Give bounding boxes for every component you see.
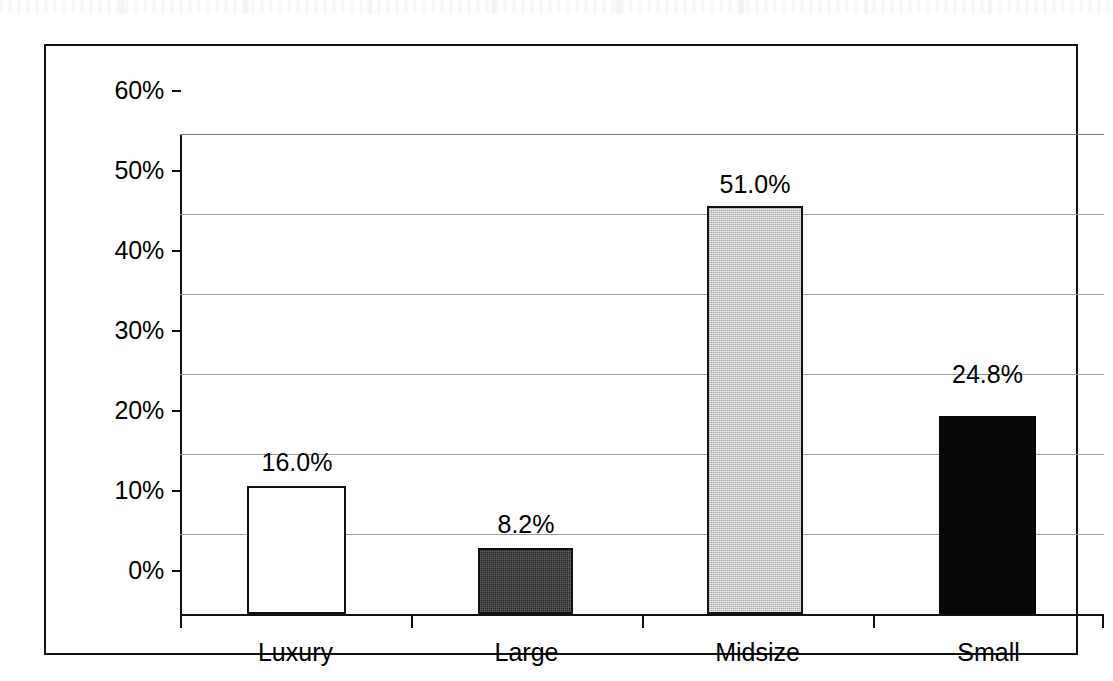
gridline-60 xyxy=(180,134,1104,135)
x-axis-label-midsize: Midsize xyxy=(642,638,873,666)
data-label-small: 24.8% xyxy=(923,362,1052,387)
y-tick-mark-60 xyxy=(172,90,181,92)
y-tick-label-60: 60% xyxy=(86,78,164,103)
bar-luxury[interactable] xyxy=(247,486,346,614)
x-tick-mark-4 xyxy=(1102,615,1104,628)
data-label-midsize: 51.0% xyxy=(691,172,819,197)
y-tick-label-40: 40% xyxy=(86,238,164,263)
plot-area: 16.0% 8.2% 51.0% 24.8% xyxy=(180,134,1104,614)
gridline-40 xyxy=(180,294,1104,295)
x-axis-label-large: Large xyxy=(411,638,642,666)
y-tick-label-0: 0% xyxy=(86,558,164,583)
y-axis-tick-labels: 60% 50% 40% 30% 20% 10% 0% xyxy=(86,46,164,657)
scan-artifact xyxy=(0,0,1113,14)
chart-frame: 60% 50% 40% 30% 20% 10% 0% 16.0% 8.2% 51… xyxy=(44,44,1078,655)
bar-midsize[interactable] xyxy=(707,206,803,614)
y-tick-label-30: 30% xyxy=(86,318,164,343)
gridline-50 xyxy=(180,214,1104,215)
data-label-large: 8.2% xyxy=(463,512,589,537)
x-tick-mark-2 xyxy=(642,615,644,628)
x-axis-label-luxury: Luxury xyxy=(180,638,411,666)
x-axis-label-small: Small xyxy=(873,638,1104,666)
x-tick-mark-1 xyxy=(411,615,413,628)
x-tick-mark-3 xyxy=(873,615,875,628)
bar-small[interactable] xyxy=(939,416,1036,614)
x-tick-mark-0 xyxy=(180,615,182,628)
data-label-luxury: 16.0% xyxy=(232,450,362,475)
y-tick-label-20: 20% xyxy=(86,398,164,423)
y-tick-label-50: 50% xyxy=(86,158,164,183)
bar-large[interactable] xyxy=(478,548,573,614)
y-tick-label-10: 10% xyxy=(86,478,164,503)
